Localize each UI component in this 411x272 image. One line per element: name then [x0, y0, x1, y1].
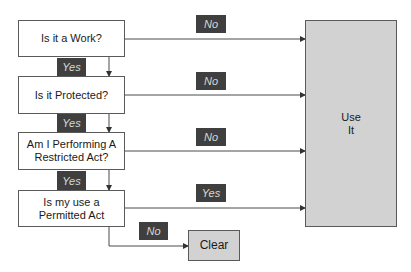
question-text: Is it a Work? [41, 32, 102, 45]
edge-label-no: No [196, 72, 226, 90]
outcome-box-clear: Clear [188, 230, 240, 261]
outcome-text: Use It [341, 111, 361, 137]
question-box-restricted-act: Am I Performing A Restricted Act? [18, 132, 125, 170]
question-box-is-work: Is it a Work? [18, 20, 125, 57]
question-text: Am I Performing A Restricted Act? [27, 138, 116, 164]
edge-label-no: No [139, 222, 168, 240]
edge-label-yes: Yes [57, 58, 86, 76]
edge-label-yes: Yes [196, 184, 226, 202]
outcome-box-use-it: Use It [305, 20, 397, 227]
edge-label-yes: Yes [57, 114, 86, 132]
edge-label-no: No [196, 128, 226, 146]
question-box-permitted-act: Is my use a Permitted Act [18, 190, 125, 227]
question-text: Is it Protected? [35, 89, 108, 102]
outcome-text: Clear [200, 239, 229, 252]
edge-label-yes: Yes [57, 171, 86, 190]
question-text: Is my use a Permitted Act [39, 196, 104, 222]
edge-label-no: No [196, 15, 226, 33]
question-box-is-protected: Is it Protected? [18, 76, 125, 114]
